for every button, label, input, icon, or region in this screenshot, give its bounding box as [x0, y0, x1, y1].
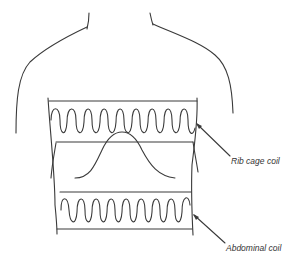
neck-right [150, 13, 153, 25]
diagram-canvas: Rib cage coil Abdominal coil [0, 0, 299, 267]
torso-right-inner [193, 142, 198, 172]
rib-cage-coil-wave [51, 109, 195, 134]
abdominal-coil-wave [61, 198, 190, 222]
torso-right-side [192, 98, 198, 235]
rib-cage-coil-label: Rib cage coil [231, 156, 280, 166]
abdominal-coil-label: Abdominal coil [226, 243, 281, 253]
abdominal-coil [57, 192, 192, 229]
respiration-waveform [75, 132, 175, 178]
rib-cage-coil [49, 101, 197, 142]
torso-diagram [0, 0, 299, 267]
rib-cage-coil-pointer [196, 123, 230, 156]
abdominal-coil-pointer [193, 214, 225, 243]
right-shoulder-outline [153, 24, 233, 113]
